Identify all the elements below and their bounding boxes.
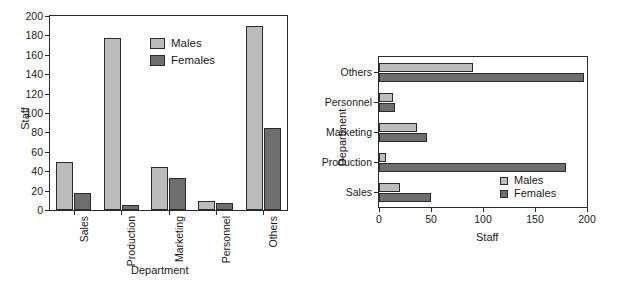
vertical-chart-y-tick: [45, 74, 50, 75]
horizontal-chart-x-tick: [431, 207, 432, 212]
bar-production-males: [104, 38, 121, 210]
horizontal-chart-x-tick: [587, 207, 588, 212]
vertical-chart-x-axis-title: Department: [131, 265, 188, 276]
bar-personnel-females: [379, 103, 395, 112]
legend-swatch-females-icon: [150, 55, 165, 66]
bar-personnel-males: [379, 93, 393, 102]
vertical-chart-x-tick: [263, 210, 264, 215]
vertical-chart-y-tick: [45, 16, 50, 17]
horizontal-chart-category-label: Others: [340, 67, 372, 78]
bar-production-females: [122, 205, 139, 210]
horizontal-chart-category-label: Marketing: [326, 127, 372, 138]
horizontal-chart-x-tick: [379, 207, 380, 212]
vertical-chart-category-label: Sales: [79, 216, 90, 242]
vertical-chart-y-tick-label: 160: [25, 50, 43, 61]
figure-canvas: Staff Department 02040608010012014016018…: [0, 0, 619, 291]
vertical-chart-y-tick: [45, 94, 50, 95]
horizontal-chart-category-label: Sales: [346, 187, 372, 198]
horizontal-chart-x-tick-label: 100: [474, 214, 492, 225]
horizontal-chart-x-tick-label: 0: [376, 214, 382, 225]
vertical-chart-y-tick-label: 20: [31, 185, 43, 196]
vertical-chart-y-tick-label: 0: [37, 205, 43, 216]
legend-swatch-males-icon: [500, 177, 508, 185]
vertical-chart-y-tick-label: 60: [31, 147, 43, 158]
bar-marketing-males: [151, 167, 168, 210]
legend-swatch-females-icon: [500, 190, 508, 198]
legend-entry-females: Females: [500, 188, 556, 199]
bar-marketing-females: [169, 178, 186, 210]
horizontal-chart-x-tick: [535, 207, 536, 212]
legend-label-males: Males: [171, 38, 202, 50]
vertical-chart-x-tick: [216, 210, 217, 215]
vertical-chart-y-tick: [45, 191, 50, 192]
vertical-chart-y-tick-label: 80: [31, 127, 43, 138]
bar-others-males: [379, 63, 473, 72]
vertical-chart-x-tick: [74, 210, 75, 215]
legend-swatch-males-icon: [150, 38, 165, 49]
vertical-chart-y-tick: [45, 113, 50, 114]
bar-others-males: [246, 26, 263, 210]
vertical-chart-y-tick: [45, 132, 50, 133]
vertical-chart-y-tick: [45, 35, 50, 36]
vertical-chart-category-label: Others: [268, 216, 279, 248]
vertical-chart-y-tick-label: 180: [25, 30, 43, 41]
horizontal-chart-plot-area: 050100150200SalesProductionMarketingPers…: [378, 56, 588, 208]
vertical-chart-category-label: Marketing: [174, 216, 185, 262]
bar-sales-females: [379, 193, 431, 202]
legend-label-males: Males: [514, 175, 543, 186]
legend-entry-males: Males: [150, 38, 215, 50]
horizontal-chart-x-tick-label: 150: [526, 214, 544, 225]
horizontal-chart-x-tick-label: 50: [425, 214, 437, 225]
bar-sales-males: [379, 183, 400, 192]
vertical-chart-y-tick: [45, 55, 50, 56]
legend-label-females: Females: [514, 188, 556, 199]
horizontal-chart-x-axis-title: Staff: [476, 232, 498, 243]
bar-marketing-females: [379, 133, 427, 142]
vertical-chart-y-tick: [45, 152, 50, 153]
vertical-bar-chart-panel: Staff Department 02040608010012014016018…: [0, 0, 310, 291]
vertical-chart-y-tick-label: 200: [25, 11, 43, 22]
bar-others-females: [379, 73, 584, 82]
bar-personnel-females: [216, 203, 233, 210]
vertical-chart-y-tick: [45, 171, 50, 172]
vertical-chart-y-tick-label: 140: [25, 69, 43, 80]
horizontal-chart-category-label: Production: [322, 157, 372, 168]
legend-entry-males: Males: [500, 175, 556, 186]
bar-personnel-males: [198, 201, 215, 210]
horizontal-chart-x-tick: [483, 207, 484, 212]
vertical-chart-y-tick-label: 40: [31, 166, 43, 177]
legend-entry-females: Females: [150, 55, 215, 67]
bar-production-males: [379, 153, 386, 162]
horizontal-bar-chart-panel: Department Staff 050100150200SalesProduc…: [310, 0, 619, 291]
vertical-chart-category-label: Production: [126, 216, 137, 266]
vertical-chart-y-tick-label: 100: [25, 108, 43, 119]
bar-production-females: [379, 163, 566, 172]
bar-sales-females: [74, 193, 91, 210]
bar-others-females: [264, 128, 281, 210]
bar-marketing-males: [379, 123, 417, 132]
vertical-chart-x-tick: [121, 210, 122, 215]
vertical-chart-category-label: Personnel: [221, 216, 232, 263]
vertical-chart-x-tick: [169, 210, 170, 215]
vertical-chart-y-tick-label: 120: [25, 88, 43, 99]
legend-label-females: Females: [171, 55, 215, 67]
bar-sales-males: [56, 162, 73, 211]
vertical-chart-y-tick: [45, 210, 50, 211]
vertical-chart-legend: Males Females: [150, 38, 215, 66]
horizontal-chart-x-tick-label: 200: [578, 214, 596, 225]
horizontal-chart-category-label: Personnel: [325, 97, 372, 108]
horizontal-chart-legend: Males Females: [500, 175, 556, 199]
